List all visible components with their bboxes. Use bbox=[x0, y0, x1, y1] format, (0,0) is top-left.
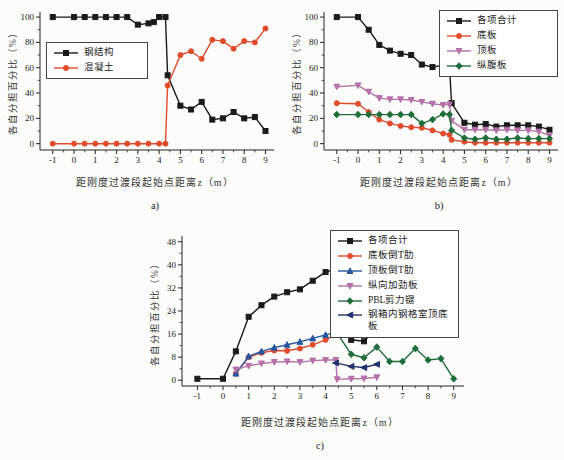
circle-marker-icon bbox=[242, 39, 247, 44]
chart-b-ylabel: 各自分担百分比（%） bbox=[289, 27, 303, 135]
square-marker-icon bbox=[72, 15, 77, 20]
triangle-left-marker-icon bbox=[348, 363, 354, 369]
circle-marker-icon bbox=[334, 101, 339, 106]
x-tick-label: 4 bbox=[323, 391, 328, 401]
legend-swatch bbox=[337, 281, 363, 291]
diamond-marker-icon bbox=[334, 111, 340, 118]
x-tick-label: 9 bbox=[263, 155, 268, 165]
square-marker-icon bbox=[398, 51, 403, 56]
chart-a-xlabel: 距刚度过渡段起始点距离z（m） bbox=[30, 174, 280, 189]
x-tick-label: 4 bbox=[157, 155, 162, 165]
y-tick-label: 40 bbox=[309, 88, 319, 98]
square-marker-icon bbox=[125, 15, 130, 20]
y-tick-label: 40 bbox=[167, 260, 177, 270]
diamond-marker-icon bbox=[387, 111, 393, 118]
square-marker-icon bbox=[547, 127, 552, 132]
figure-three-panel-charts: -10123456789020406080100 各自分担百分比（%） 距刚度过… bbox=[0, 0, 564, 460]
chart-c-ylabel: 各自分担百分比（%） bbox=[147, 258, 161, 366]
square-marker-icon bbox=[135, 22, 140, 27]
legend-entry-0: 各项合计 bbox=[337, 235, 452, 247]
chart-c-legend: 各项合计底板倒T肋顶板倒T肋纵向加劲板PBL剪力键钢箱内钢格室顶底板 bbox=[330, 230, 459, 338]
x-tick-label: 1 bbox=[246, 391, 251, 401]
legend-label: 顶板 bbox=[477, 45, 497, 57]
chart-c-xlabel: 距刚度过渡段起始点距离z（m） bbox=[170, 414, 470, 429]
chart-b-caption: b) bbox=[314, 200, 564, 211]
y-tick-label: 0 bbox=[314, 139, 319, 149]
triangle-down-marker-icon bbox=[366, 89, 372, 95]
circle-marker-icon bbox=[252, 40, 257, 45]
circle-marker-icon bbox=[457, 33, 462, 38]
square-marker-icon bbox=[362, 339, 367, 344]
legend-label: 底板 bbox=[477, 30, 497, 42]
square-marker-icon bbox=[430, 65, 435, 70]
square-marker-icon bbox=[473, 122, 478, 127]
legend-swatch bbox=[53, 63, 79, 73]
chart-b-legend: 各项合计底板顶板纵腹板 bbox=[439, 10, 558, 77]
x-tick-label: 6 bbox=[375, 391, 380, 401]
diamond-marker-icon bbox=[515, 135, 521, 142]
y-tick-label: 16 bbox=[167, 329, 177, 339]
x-tick-label: 9 bbox=[547, 155, 552, 165]
y-tick-label: 40 bbox=[25, 88, 35, 98]
legend-entry-1: 底板倒T肋 bbox=[337, 250, 452, 262]
square-marker-icon bbox=[419, 62, 424, 67]
y-tick-label: 60 bbox=[25, 63, 35, 73]
diamond-marker-icon bbox=[440, 111, 446, 118]
square-marker-icon bbox=[483, 122, 488, 127]
legend-swatch bbox=[337, 251, 363, 261]
square-marker-icon bbox=[233, 349, 238, 354]
circle-marker-icon bbox=[146, 141, 151, 146]
legend-label: 钢箱内钢格室顶底板 bbox=[368, 309, 452, 333]
x-tick-label: -1 bbox=[49, 155, 57, 165]
x-tick-label: 2 bbox=[398, 155, 403, 165]
square-marker-icon bbox=[377, 42, 382, 47]
legend-entry-3: 纵向加劲板 bbox=[337, 280, 452, 292]
x-tick-label: 7 bbox=[505, 155, 510, 165]
square-marker-icon bbox=[409, 53, 414, 58]
square-marker-icon bbox=[146, 21, 151, 26]
y-tick-label: 0 bbox=[172, 375, 177, 385]
square-marker-icon bbox=[462, 120, 467, 125]
diamond-marker-icon bbox=[376, 111, 382, 118]
x-tick-label: 5 bbox=[462, 155, 467, 165]
legend-entry-1: 底板 bbox=[446, 30, 551, 42]
y-tick-label: 80 bbox=[309, 37, 319, 47]
square-marker-icon bbox=[82, 15, 87, 20]
y-tick-label: 80 bbox=[25, 37, 35, 47]
circle-marker-icon bbox=[50, 141, 55, 146]
square-marker-icon bbox=[246, 314, 251, 319]
circle-marker-icon bbox=[72, 141, 77, 146]
square-marker-icon bbox=[157, 15, 162, 20]
triangle-left-marker-icon bbox=[374, 361, 380, 367]
circle-marker-icon bbox=[441, 131, 446, 136]
y-tick-label: 20 bbox=[25, 113, 35, 123]
square-marker-icon bbox=[263, 129, 268, 134]
series-line-5 bbox=[336, 363, 377, 368]
legend-entry-3: 纵腹板 bbox=[446, 60, 551, 72]
circle-marker-icon bbox=[323, 337, 328, 342]
legend-swatch bbox=[337, 296, 363, 306]
circle-marker-icon bbox=[398, 123, 403, 128]
x-tick-label: 5 bbox=[349, 391, 354, 401]
chart-a-ylabel: 各自分担百分比（%） bbox=[5, 27, 19, 135]
circle-marker-icon bbox=[178, 53, 183, 58]
legend-label: 纵向加劲板 bbox=[368, 280, 418, 292]
square-marker-icon bbox=[114, 15, 119, 20]
circle-marker-icon bbox=[231, 46, 236, 51]
square-marker-icon bbox=[259, 303, 264, 308]
circle-marker-icon bbox=[64, 65, 69, 70]
legend-label: 各项合计 bbox=[368, 235, 408, 247]
legend-swatch bbox=[446, 16, 472, 26]
chart-b: -10123456789020406080100 各自分担百分比（%） 距刚度过… bbox=[284, 2, 564, 224]
diamond-marker-icon bbox=[347, 297, 353, 304]
square-marker-icon bbox=[199, 99, 204, 104]
circle-marker-icon bbox=[297, 346, 302, 351]
diamond-marker-icon bbox=[398, 111, 404, 118]
square-marker-icon bbox=[163, 15, 168, 20]
legend-entry-1: 混凝土 bbox=[53, 62, 141, 74]
square-marker-icon bbox=[334, 15, 339, 20]
x-tick-label: 6 bbox=[199, 155, 204, 165]
square-marker-icon bbox=[526, 123, 531, 128]
x-tick-label: 4 bbox=[441, 155, 446, 165]
legend-entry-5: 钢箱内钢格室顶底板 bbox=[337, 309, 452, 333]
